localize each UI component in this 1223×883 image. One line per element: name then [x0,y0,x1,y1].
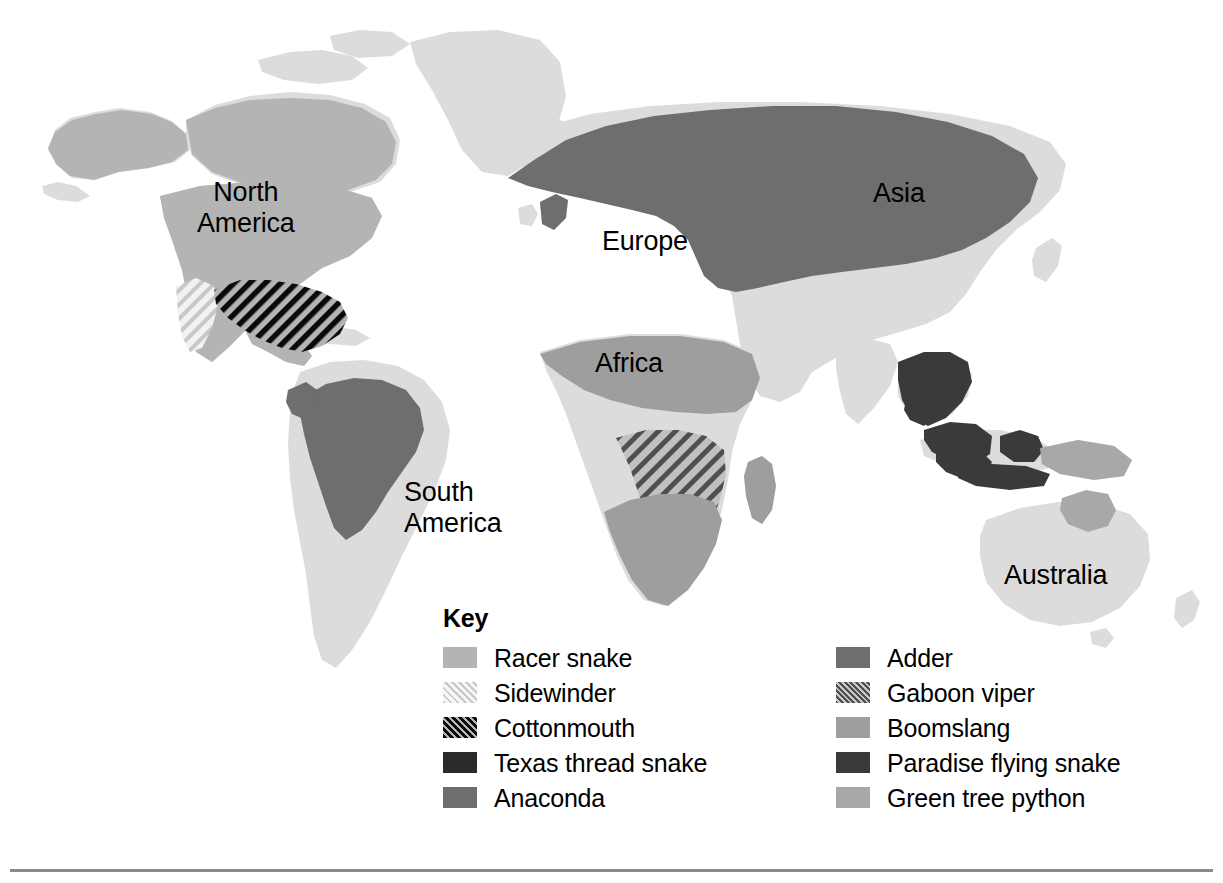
legend-label-sidewinder: Sidewinder [494,679,616,707]
legend-swatch-sidewinder [443,682,477,703]
legend-swatch-green-tree-python [836,787,870,808]
map-page: North America South America Europe Asia … [0,0,1223,883]
legend-title: Key [443,604,1143,633]
legend-swatch-texas-thread-snake [443,752,477,773]
legend-label-texas-thread-snake: Texas thread snake [494,749,707,777]
legend-label-paradise-flying-snake: Paradise flying snake [887,749,1120,777]
legend-swatch-gaboon-viper [836,682,870,703]
legend-swatch-boomslang [836,717,870,738]
legend-label-racer-snake: Racer snake [494,644,632,672]
legend-item-anaconda[interactable]: Anaconda [443,780,836,815]
legend-columns: Racer snake Sidewinder Cottonmouth Texas… [443,640,1143,815]
legend-item-adder[interactable]: Adder [836,640,1143,675]
legend-label-green-tree-python: Green tree python [887,784,1085,812]
map-legend: Key Racer snake Sidewinder Cottonmouth T [443,604,1143,815]
legend-swatch-adder [836,647,870,668]
legend-item-texas-thread-snake[interactable]: Texas thread snake [443,745,836,780]
legend-item-sidewinder[interactable]: Sidewinder [443,675,836,710]
legend-item-cottonmouth[interactable]: Cottonmouth [443,710,836,745]
legend-swatch-anaconda [443,787,477,808]
legend-label-boomslang: Boomslang [887,714,1010,742]
legend-item-boomslang[interactable]: Boomslang [836,710,1143,745]
bottom-divider [10,869,1213,872]
legend-column-left: Racer snake Sidewinder Cottonmouth Texas… [443,640,836,815]
legend-column-right: Adder Gaboon viper Boomslang Paradise fl… [836,640,1143,815]
legend-swatch-racer-snake [443,647,477,668]
legend-label-gaboon-viper: Gaboon viper [887,679,1035,707]
legend-swatch-paradise-flying-snake [836,752,870,773]
legend-item-racer-snake[interactable]: Racer snake [443,640,836,675]
legend-item-paradise-flying-snake[interactable]: Paradise flying snake [836,745,1143,780]
legend-item-green-tree-python[interactable]: Green tree python [836,780,1143,815]
legend-label-cottonmouth: Cottonmouth [494,714,635,742]
legend-swatch-cottonmouth [443,717,477,738]
legend-label-adder: Adder [887,644,953,672]
legend-label-anaconda: Anaconda [494,784,605,812]
legend-item-gaboon-viper[interactable]: Gaboon viper [836,675,1143,710]
